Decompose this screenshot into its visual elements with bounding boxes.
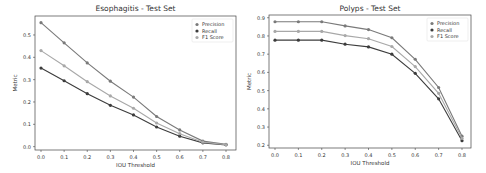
data-point xyxy=(132,107,135,110)
legend-marker xyxy=(195,29,198,32)
legend: PrecisionRecallF1 Score xyxy=(427,18,468,41)
y-tick-label: 0.7 xyxy=(257,51,265,57)
legend-marker xyxy=(195,23,198,26)
y-axis-label: Metric xyxy=(246,73,252,90)
data-point xyxy=(39,49,42,52)
y-tick-label: 0.3 xyxy=(257,124,265,130)
y-tick-label: 0.6 xyxy=(257,69,265,75)
data-point xyxy=(86,80,89,83)
data-point xyxy=(155,121,158,124)
polyps-chart: Polyps - Test Set0.20.30.40.50.60.70.80.… xyxy=(243,0,486,173)
x-tick-label: 0.1 xyxy=(60,154,68,160)
legend-label: Precision xyxy=(202,21,224,27)
legend: PrecisionRecallF1 Score xyxy=(192,19,233,42)
data-point xyxy=(273,20,276,23)
y-tick-label: 0.2 xyxy=(257,142,265,148)
data-point xyxy=(39,21,42,24)
data-point xyxy=(367,37,370,40)
data-point xyxy=(109,94,112,97)
data-point xyxy=(437,86,440,89)
legend-marker xyxy=(430,22,433,25)
data-point xyxy=(132,95,135,98)
data-point xyxy=(390,45,393,48)
data-point xyxy=(344,34,347,37)
data-point xyxy=(63,79,66,82)
x-tick-label: 0.7 xyxy=(435,152,443,158)
data-point xyxy=(273,39,276,42)
data-point xyxy=(320,30,323,33)
legend-marker xyxy=(430,28,433,31)
x-tick-label: 0.4 xyxy=(365,152,373,158)
x-tick-label: 0.2 xyxy=(318,152,326,158)
data-point xyxy=(297,30,300,33)
legend-marker xyxy=(195,36,198,39)
data-point xyxy=(297,39,300,42)
data-point xyxy=(63,64,66,67)
data-point xyxy=(344,24,347,27)
x-tick-label: 0.3 xyxy=(341,152,349,158)
x-tick-label: 0.6 xyxy=(176,154,184,160)
legend-label: Recall xyxy=(202,28,217,34)
data-point xyxy=(437,92,440,95)
y-tick-label: 0.3 xyxy=(23,77,31,83)
x-axis-label: IOU Threshold xyxy=(116,162,155,168)
data-point xyxy=(320,20,323,23)
y-axis-label: Metric xyxy=(12,74,18,91)
y-tick-label: 0.0 xyxy=(23,144,31,150)
data-point xyxy=(344,43,347,46)
data-point xyxy=(39,66,42,69)
data-point xyxy=(178,132,181,135)
x-tick-label: 0.3 xyxy=(106,154,114,160)
x-tick-label: 0.5 xyxy=(153,154,161,160)
data-point xyxy=(460,137,463,140)
y-tick-label: 0.8 xyxy=(257,33,265,39)
data-point xyxy=(367,28,370,31)
data-point xyxy=(109,80,112,83)
legend-label: Recall xyxy=(437,27,452,33)
data-point xyxy=(320,39,323,42)
x-tick-label: 0.8 xyxy=(458,152,466,158)
legend-marker xyxy=(430,35,433,38)
data-point xyxy=(86,61,89,64)
data-point xyxy=(155,125,158,128)
x-tick-label: 0.5 xyxy=(388,152,396,158)
data-point xyxy=(437,97,440,100)
data-point xyxy=(273,30,276,33)
x-tick-label: 0.0 xyxy=(271,152,279,158)
data-point xyxy=(297,20,300,23)
data-point xyxy=(224,143,227,146)
data-point xyxy=(414,58,417,61)
x-tick-label: 0.2 xyxy=(83,154,91,160)
data-point xyxy=(367,45,370,48)
legend-label: F1 Score xyxy=(202,34,224,40)
esophagitis-chart: Esophagitis - Test Set0.00.10.20.30.40.5… xyxy=(0,0,243,173)
y-tick-label: 0.4 xyxy=(23,54,31,60)
chart-title: Polyps - Test Set xyxy=(340,4,401,13)
x-tick-label: 0.7 xyxy=(199,154,207,160)
data-point xyxy=(132,113,135,116)
x-axis-label: IOU Threshold xyxy=(351,160,390,166)
x-tick-label: 0.8 xyxy=(222,154,230,160)
data-point xyxy=(63,41,66,44)
data-point xyxy=(155,115,158,118)
x-tick-label: 0.6 xyxy=(411,152,419,158)
data-point xyxy=(414,65,417,68)
data-point xyxy=(201,141,204,144)
x-tick-label: 0.0 xyxy=(37,154,45,160)
data-point xyxy=(390,53,393,56)
data-point xyxy=(86,92,89,95)
data-point xyxy=(178,128,181,131)
y-tick-label: 0.4 xyxy=(257,106,265,112)
data-point xyxy=(109,104,112,107)
y-tick-label: 0.5 xyxy=(257,88,265,94)
y-tick-label: 0.2 xyxy=(23,99,31,105)
legend-label: F1 Score xyxy=(437,33,459,39)
x-tick-label: 0.4 xyxy=(130,154,138,160)
data-point xyxy=(390,36,393,39)
y-tick-label: 0.1 xyxy=(23,121,31,127)
y-tick-label: 0.9 xyxy=(257,15,265,21)
x-tick-label: 0.1 xyxy=(294,152,302,158)
data-point xyxy=(414,72,417,75)
chart-title: Esophagitis - Test Set xyxy=(95,4,175,13)
legend-label: Precision xyxy=(437,20,459,26)
